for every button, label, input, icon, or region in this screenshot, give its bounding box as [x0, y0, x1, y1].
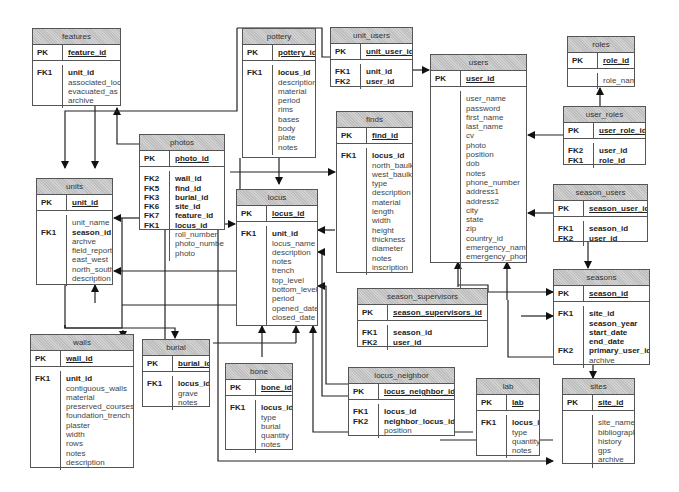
key-label: FK5: [144, 184, 169, 193]
key-label: FK3: [144, 193, 169, 202]
field: unit_name: [72, 218, 112, 227]
key-label: FK2: [558, 346, 583, 355]
field: description: [272, 248, 317, 257]
field: notes: [272, 257, 317, 266]
table-locus[interactable]: locus PKlocus_id FK1 unit_id locus_name …: [236, 189, 318, 326]
table-title: users: [431, 55, 526, 71]
field: notes: [66, 449, 133, 458]
table-bone[interactable]: bone PKbone_id FK1 locus_id type burial …: [225, 363, 293, 450]
field: evacuated_as: [68, 87, 120, 96]
field: user_id: [599, 146, 645, 155]
key-label: FK1: [241, 229, 266, 238]
field: bottom_level: [272, 285, 317, 294]
table-title: unit_users: [331, 28, 412, 44]
table-burial[interactable]: burial PKburial_id FK1 locus_id grave no…: [142, 339, 210, 407]
table-title: features: [33, 29, 120, 45]
table-title: season_supervisors: [358, 289, 487, 305]
field: locus_id: [278, 68, 315, 77]
field: user_name: [466, 94, 526, 103]
field: closed_date: [272, 313, 317, 322]
key-label: FK2: [558, 234, 583, 243]
field: period: [272, 294, 317, 303]
key-label: FK2: [144, 174, 169, 183]
key-label: FK1: [362, 328, 387, 337]
field: address1: [466, 187, 526, 196]
key-label: FK1: [35, 374, 60, 383]
field: roll_number: [175, 230, 224, 239]
table-photos[interactable]: photos PKphoto_id FK2 FK5 FK3 FK6 FK7 FK…: [139, 134, 225, 230]
field: plate: [278, 133, 315, 142]
table-title: pottery: [243, 29, 315, 45]
field: field_report: [72, 246, 112, 255]
field: type: [372, 179, 412, 188]
primary-key-field: feature_id: [63, 45, 120, 60]
field: burial_id: [175, 193, 224, 202]
pk-label: PK: [337, 128, 367, 143]
field: password: [466, 104, 526, 113]
field: user_id: [393, 338, 487, 347]
field: user_id: [589, 234, 647, 243]
key-label: FK1: [37, 68, 62, 77]
table-units[interactable]: units PKunit_id FK1 unit_name season_id …: [36, 178, 113, 285]
field: country_id: [466, 234, 526, 243]
table-title: finds: [337, 112, 412, 128]
key-label: FK1: [335, 67, 360, 76]
primary-key-field: season_user_id: [584, 201, 647, 216]
field: locus_id: [512, 418, 539, 427]
pk-label: PK: [237, 206, 267, 221]
field: gps: [598, 446, 634, 455]
table-users[interactable]: users PKuser_id user_name password first…: [430, 54, 527, 263]
table-season-supervisors[interactable]: season_supervisors PKseason_supervisors_…: [357, 288, 488, 347]
primary-key-field: wall_id: [61, 351, 133, 366]
field: north_baulk: [372, 161, 412, 170]
primary-key-field: pottery_id: [273, 45, 315, 60]
primary-key-field: user_id: [461, 71, 526, 86]
table-title: sites: [563, 379, 634, 395]
primary-key-field: unit_id: [67, 195, 112, 210]
field: locus_name: [272, 239, 317, 248]
field: unit_id: [66, 374, 133, 383]
primary-key-field: lab: [507, 395, 539, 410]
table-seasons[interactable]: seasons PKseason_id FK1 FK2 site_id seas…: [553, 269, 650, 365]
field: material: [278, 87, 315, 96]
field: plaster: [66, 421, 133, 430]
field: history: [598, 437, 634, 446]
table-pottery[interactable]: pottery PKpottery_id FK1 locus_id descri…: [242, 28, 316, 158]
table-walls[interactable]: walls PKwall_id FK1 unit_id contiguous_w…: [30, 334, 134, 468]
table-finds[interactable]: finds PKfind_id FK1 locus_id north_baulk…: [336, 111, 413, 273]
field: site_id: [589, 309, 649, 318]
table-user-roles[interactable]: user_roles PKuser_role_id FK2FK1 user_id…: [563, 106, 646, 165]
table-season-users[interactable]: season_users PKseason_user_id FK1FK2 sea…: [553, 184, 648, 242]
table-title: locus_neighbor: [349, 368, 454, 384]
field: notes: [261, 440, 292, 449]
pk-label: PK: [31, 351, 61, 366]
field: primary_user_id: [589, 346, 649, 355]
field: west_baulk: [372, 170, 412, 179]
table-locus-neighbor[interactable]: locus_neighbor PKlocus_neighbor_id FK1FK…: [348, 367, 455, 436]
table-lab[interactable]: lab PKlab FK1 locus_id type quantity not…: [476, 378, 540, 456]
field: quantity: [261, 431, 292, 440]
field: type: [512, 428, 539, 437]
field: rows: [66, 439, 133, 448]
field: description: [372, 188, 412, 197]
field: end_date: [589, 337, 649, 346]
table-title: units: [37, 179, 112, 195]
field: dob: [466, 159, 526, 168]
field: notes: [466, 169, 526, 178]
pk-label: PK: [554, 201, 584, 216]
pk-label: PK: [358, 305, 388, 320]
field: period: [278, 96, 315, 105]
field: trench: [272, 266, 317, 275]
field: inscription: [372, 263, 412, 272]
field: season_year: [589, 319, 649, 328]
table-unit-users[interactable]: unit_users PKunit_user_id FK1FK2 unit_id…: [330, 27, 413, 87]
table-title: burial: [143, 340, 209, 356]
table-roles[interactable]: roles PKrole_id role_name: [567, 36, 635, 87]
key-label: [41, 218, 66, 227]
field: north_south: [72, 265, 112, 274]
field: photo: [466, 141, 526, 150]
field: thickness: [372, 235, 412, 244]
field: first_name: [466, 113, 526, 122]
table-sites[interactable]: sites PKsite_id site_name bibliography h…: [562, 378, 635, 464]
table-features[interactable]: features PKfeature_id FK1 unit_id associ…: [32, 28, 121, 106]
